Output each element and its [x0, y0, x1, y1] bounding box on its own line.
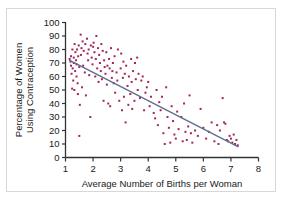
- data-point: [75, 59, 77, 61]
- figure-card: 010203040506070809010012345678Average Nu…: [6, 8, 276, 192]
- y-tick-label-70: 70: [49, 57, 60, 68]
- data-point: [171, 105, 173, 107]
- y-tick-label-30: 30: [49, 111, 60, 122]
- data-point: [205, 138, 207, 140]
- data-point: [103, 59, 105, 61]
- data-point: [121, 109, 123, 111]
- data-point: [137, 89, 139, 91]
- data-point: [130, 58, 132, 60]
- data-point: [87, 59, 89, 61]
- data-point: [224, 123, 226, 125]
- data-point: [189, 94, 191, 96]
- data-point: [222, 97, 224, 99]
- data-point: [211, 121, 213, 123]
- data-point: [235, 139, 237, 141]
- data-point: [164, 143, 166, 145]
- data-point: [128, 76, 130, 78]
- data-point: [87, 53, 89, 55]
- data-point: [103, 100, 105, 102]
- data-point: [76, 76, 78, 78]
- x-tick-label-7: 7: [228, 163, 233, 174]
- data-point: [120, 67, 122, 69]
- y-tick-label-40: 40: [49, 98, 60, 109]
- data-point: [106, 84, 108, 86]
- regression-line: [70, 60, 238, 146]
- data-point: [100, 70, 102, 72]
- data-point: [80, 47, 82, 49]
- data-point: [155, 89, 157, 91]
- data-point: [104, 66, 106, 68]
- data-point: [158, 101, 160, 103]
- data-point: [132, 70, 134, 72]
- data-point: [120, 53, 122, 55]
- data-point: [197, 135, 199, 137]
- data-point: [162, 132, 164, 134]
- data-point: [213, 140, 215, 142]
- data-point: [173, 134, 175, 136]
- data-point: [95, 35, 97, 37]
- data-point: [131, 81, 133, 83]
- data-point: [112, 62, 114, 64]
- data-point: [117, 49, 119, 51]
- data-point: [219, 130, 221, 132]
- data-point: [72, 80, 74, 82]
- y-tick-label-80: 80: [49, 44, 60, 55]
- y-axis-title-line1: Percentage of Women: [13, 43, 24, 137]
- data-point: [167, 116, 169, 118]
- data-point: [114, 55, 116, 57]
- y-tick-label-100: 100: [44, 17, 60, 28]
- data-point: [88, 49, 90, 51]
- data-point: [187, 125, 189, 127]
- data-point: [90, 44, 92, 46]
- data-point: [142, 76, 144, 78]
- data-point: [165, 86, 167, 88]
- data-point: [99, 62, 101, 64]
- data-point: [95, 58, 97, 60]
- data-point: [93, 42, 95, 44]
- data-point: [150, 96, 152, 98]
- data-point: [72, 67, 74, 69]
- x-tick-label-6: 6: [201, 163, 206, 174]
- data-point: [176, 111, 178, 113]
- data-point: [200, 108, 202, 110]
- data-point: [78, 135, 80, 137]
- data-point: [191, 142, 193, 144]
- data-point: [80, 54, 82, 56]
- data-point: [182, 140, 184, 142]
- data-point: [105, 51, 107, 53]
- data-point: [111, 70, 113, 72]
- data-point: [80, 34, 82, 36]
- x-tick-label-8: 8: [256, 163, 261, 174]
- data-point: [97, 47, 99, 49]
- data-point: [73, 57, 75, 59]
- data-point: [108, 58, 110, 60]
- data-point: [74, 70, 76, 72]
- data-point: [136, 57, 138, 59]
- data-point: [127, 104, 129, 106]
- data-point: [125, 121, 127, 123]
- x-tick-label-3: 3: [118, 163, 123, 174]
- data-point: [138, 73, 140, 75]
- data-point: [88, 74, 90, 76]
- data-point: [77, 55, 79, 57]
- y-tick-label-20: 20: [49, 125, 60, 136]
- data-point: [91, 57, 93, 59]
- x-axis-title: Average Number of Births per Woman: [82, 178, 243, 189]
- data-point: [169, 142, 171, 144]
- data-point: [92, 46, 94, 48]
- data-point: [100, 43, 102, 45]
- data-point: [109, 105, 111, 107]
- data-point: [147, 81, 149, 83]
- data-point: [135, 78, 137, 80]
- y-tick-label-10: 10: [49, 138, 60, 149]
- data-point: [76, 49, 78, 51]
- x-tick-label-5: 5: [173, 163, 178, 174]
- data-point: [216, 124, 218, 126]
- data-point: [82, 40, 84, 42]
- data-point: [79, 104, 81, 106]
- data-point: [83, 50, 85, 52]
- data-point: [229, 135, 231, 137]
- caption-partial-text: [8, 200, 258, 209]
- data-point: [175, 138, 177, 140]
- x-tick-label-1: 1: [63, 163, 68, 174]
